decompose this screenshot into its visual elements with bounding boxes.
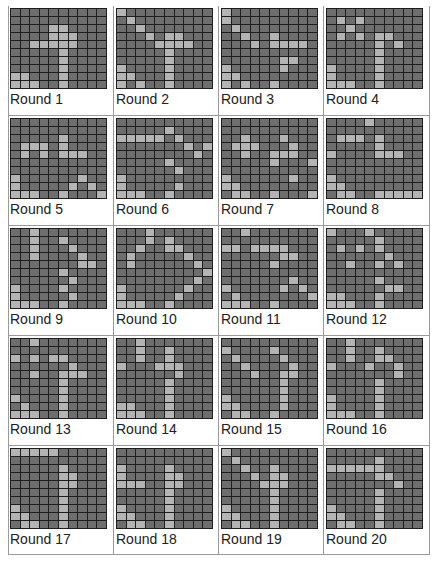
grid-cell-off (404, 25, 413, 32)
grid-cell-off (308, 253, 317, 260)
grid-cell-off (175, 339, 184, 346)
grid-cell-off (251, 65, 260, 72)
grid-cell-off (40, 73, 49, 80)
round-grid (116, 338, 213, 419)
grid-cell-off (365, 355, 374, 362)
grid-cell-off (127, 293, 136, 300)
grid-cell-off (97, 355, 106, 362)
grid-cell-off (155, 245, 164, 252)
grid-cell-off (308, 57, 317, 64)
grid-cell-off (88, 277, 97, 284)
grid-cell-off (127, 355, 136, 362)
grid-cell-off (78, 285, 87, 292)
grid-cell-off (404, 465, 413, 472)
grid-cell-on (30, 521, 39, 528)
grid-cell-off (232, 175, 241, 182)
grid-cell-off (394, 411, 403, 418)
grid-cell-off (232, 33, 241, 40)
grid-cell-on (165, 49, 174, 56)
grid-cell-off (365, 237, 374, 244)
grid-cell-on (165, 347, 174, 354)
grid-cell-off (155, 293, 164, 300)
grid-cell-off (375, 127, 384, 134)
grid-cell-off (308, 41, 317, 48)
grid-cell-off (222, 371, 231, 378)
grid-cell-on (30, 237, 39, 244)
grid-cell-off (346, 363, 355, 370)
grid-cell-off (299, 387, 308, 394)
grid-cell-on (270, 33, 279, 40)
grid-cell-on (49, 355, 58, 362)
grid-cell-off (97, 473, 106, 480)
grid-cell-off (337, 237, 346, 244)
grid-cell-off (30, 73, 39, 80)
grid-cell-on (375, 505, 384, 512)
grid-cell-on (346, 191, 355, 198)
grid-cell-off (346, 513, 355, 520)
grid-cell-off (308, 347, 317, 354)
grid-cell-off (69, 49, 78, 56)
grid-cell-off (251, 151, 260, 158)
grid-cell-off (49, 17, 58, 24)
grid-cell-off (385, 465, 394, 472)
grid-cell-off (194, 481, 203, 488)
grid-cell-off (260, 285, 269, 292)
grid-cell-off (146, 183, 155, 190)
grid-cell-off (365, 261, 374, 268)
grid-cell-off (184, 379, 193, 386)
grid-cell-off (184, 151, 193, 158)
grid-cell-on (327, 363, 336, 370)
grid-cell-off (78, 505, 87, 512)
grid-cell-off (88, 347, 97, 354)
grid-cell-off (69, 229, 78, 236)
grid-cell-off (78, 395, 87, 402)
grid-cell-off (40, 457, 49, 464)
grid-cell-off (394, 355, 403, 362)
grid-cell-off (165, 449, 174, 456)
grid-cell-off (337, 167, 346, 174)
grid-cell-off (413, 57, 422, 64)
grid-cell-off (117, 25, 126, 32)
grid-cell-off (413, 411, 422, 418)
grid-cell-on (11, 175, 20, 182)
grid-cell-off (203, 285, 212, 292)
grid-cell-off (146, 73, 155, 80)
grid-cell-on (136, 135, 145, 142)
grid-cell-off (385, 269, 394, 276)
grid-cell-off (308, 17, 317, 24)
grid-cell-off (117, 159, 126, 166)
grid-cell-off (203, 127, 212, 134)
grid-cell-off (11, 135, 20, 142)
grid-cell-off (327, 127, 336, 134)
grid-cell-off (241, 119, 250, 126)
grid-cell-off (289, 339, 298, 346)
grid-cell-on (394, 151, 403, 158)
grid-cell-off (194, 41, 203, 48)
grid-cell-off (155, 339, 164, 346)
grid-cell-off (327, 25, 336, 32)
grid-cell-on (165, 191, 174, 198)
grid-cell-off (88, 143, 97, 150)
grid-cell-on (251, 473, 260, 480)
grid-cell-off (165, 119, 174, 126)
grid-cell-off (97, 175, 106, 182)
grid-cell-off (49, 73, 58, 80)
grid-cell-off (49, 65, 58, 72)
grid-cell-off (11, 457, 20, 464)
grid-cell-off (155, 301, 164, 308)
grid-cell-off (241, 261, 250, 268)
grid-cell-off (327, 339, 336, 346)
grid-cell-off (40, 465, 49, 472)
grid-cell-off (222, 25, 231, 32)
grid-cell-on (117, 363, 126, 370)
grid-cell-off (394, 253, 403, 260)
grid-cell-off (251, 395, 260, 402)
grid-cell-off (78, 379, 87, 386)
grid-cell-off (11, 237, 20, 244)
grid-cell-off (375, 339, 384, 346)
grid-cell-off (146, 41, 155, 48)
round-grid (10, 448, 107, 529)
grid-cell-on (165, 403, 174, 410)
grid-cell-off (337, 269, 346, 276)
grid-cell-on (184, 253, 193, 260)
